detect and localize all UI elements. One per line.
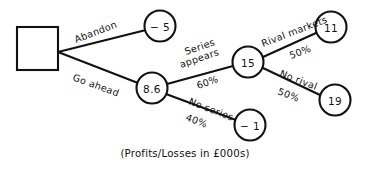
branch-prob-no-rival: 50% xyxy=(276,86,301,104)
node-15-label: 15 xyxy=(241,57,255,69)
node-minus1-label: − 1 xyxy=(240,120,260,132)
decision-tree-diagram: − 5 8.6 15 − 1 11 19 Abandon Go ahead Se… xyxy=(0,0,370,172)
decision-tree-canvas: − 5 8.6 15 − 1 11 19 Abandon Go ahead Se… xyxy=(0,0,370,172)
diagram-caption: (Profits/Losses in £000s) xyxy=(0,148,370,159)
branch-label-abandon: Abandon xyxy=(73,19,119,45)
edge-go-ahead xyxy=(58,52,138,83)
node-minus5-label: − 5 xyxy=(150,21,170,33)
branch-prob-rival-markets: 50% xyxy=(288,43,313,61)
node-19-label: 19 xyxy=(328,95,342,107)
branch-label-go-ahead: Go ahead xyxy=(71,72,120,99)
branch-prob-no-series: 40% xyxy=(184,112,209,130)
decision-square-node[interactable] xyxy=(17,27,58,70)
node-8-6-label: 8.6 xyxy=(143,83,161,95)
